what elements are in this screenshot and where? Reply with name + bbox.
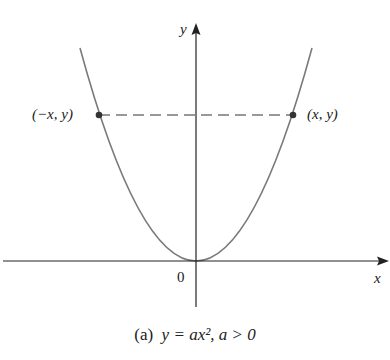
- figure-caption: (a) y = ax², a > 0: [0, 325, 390, 345]
- point-left: [96, 112, 103, 119]
- parabola-diagram: [0, 0, 390, 360]
- origin-label: 0: [177, 270, 185, 285]
- left-point-label: (−x, y): [32, 107, 73, 122]
- right-point-label: (x, y): [307, 107, 338, 122]
- x-axis-label: x: [374, 271, 381, 286]
- y-axis-label: y: [180, 22, 187, 37]
- caption-equation: y = ax², a > 0: [162, 325, 256, 344]
- point-right: [290, 112, 297, 119]
- caption-prefix: (a): [134, 325, 153, 344]
